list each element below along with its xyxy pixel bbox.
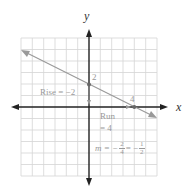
fraction-1-denominator: 4: [120, 149, 124, 156]
x-axis-left-arrow-icon: [11, 104, 19, 110]
x-axis-label: x: [176, 101, 181, 113]
x-intercept-label: 4: [130, 95, 135, 104]
run-arrow-head-icon: [126, 105, 131, 109]
y-axis-up-arrow-icon: [86, 29, 92, 37]
slope-prefix: m = −: [95, 144, 118, 153]
slope-mid: = −: [126, 144, 138, 153]
slope-fraction-2: 1 2: [139, 141, 145, 156]
fraction-2-denominator: 2: [140, 149, 144, 156]
rise-annotation: Rise = −2: [40, 88, 75, 97]
slope-equation: m = − 2 4 = − 1 2: [95, 141, 145, 156]
y-axis-down-arrow-icon: [86, 178, 92, 186]
coordinate-plane: [0, 0, 190, 192]
y-axis-label: y: [84, 10, 89, 22]
point-y-intercept: [87, 83, 91, 87]
slope-fraction-1: 2 4: [119, 141, 125, 156]
y-intercept-label: 2: [92, 73, 97, 82]
run-annotation-line2: = 4: [100, 124, 112, 133]
run-annotation-line1: Run: [100, 112, 115, 121]
line-arrow-upper-left-icon: [21, 50, 30, 57]
x-axis-right-arrow-icon: [160, 104, 168, 110]
line-arrow-lower-right-icon: [148, 111, 157, 118]
point-x-intercept: [132, 105, 136, 109]
rise-arrow-head-icon: [87, 100, 91, 105]
